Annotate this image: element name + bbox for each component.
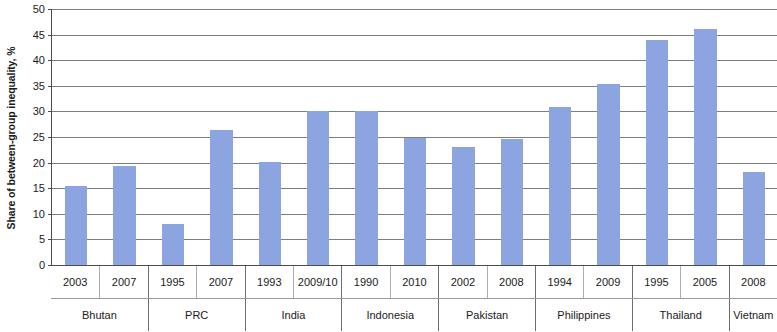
x-axis-year-cell: 2002 <box>438 266 486 298</box>
bar-chart: Share of between-group inequality, % 504… <box>0 0 777 332</box>
y-axis-tick-label: 10 <box>33 208 45 220</box>
x-axis-year-cell: 2007 <box>196 266 244 298</box>
x-axis-year-cell: 2009/10 <box>293 266 341 298</box>
x-axis-year-row: 200320071995200719932009/101990201020022… <box>51 265 777 298</box>
y-axis-tick-label: 30 <box>33 105 45 117</box>
x-axis-country-cell: PRC <box>148 299 245 331</box>
x-axis-year-cell: 1993 <box>245 266 293 298</box>
x-axis-country-cell: Pakistan <box>438 299 535 331</box>
x-axis-country-cell: India <box>245 299 342 331</box>
bar <box>743 172 765 265</box>
bar <box>452 147 474 265</box>
bars-layer <box>52 9 777 265</box>
x-axis-year-cell: 2007 <box>99 266 147 298</box>
plot-area <box>51 9 777 265</box>
bar <box>549 107 571 265</box>
x-axis-year-cell: 2003 <box>51 266 99 298</box>
y-axis-tick-label: 50 <box>33 3 45 15</box>
x-axis-year-cell: 1995 <box>148 266 196 298</box>
x-axis-year-cell: 2010 <box>390 266 438 298</box>
bar <box>597 84 619 265</box>
y-axis-tick-label: 45 <box>33 29 45 41</box>
x-axis-year-cell: 2009 <box>583 266 631 298</box>
x-axis-year-cell: 1994 <box>535 266 583 298</box>
x-axis-country-cell: Philippines <box>535 299 632 331</box>
bar <box>307 111 329 265</box>
x-axis-country-cell: Vietnam <box>729 299 777 331</box>
y-axis-tick-label: 35 <box>33 80 45 92</box>
y-axis-tick-label: 20 <box>33 157 45 169</box>
x-axis-year-cell: 2005 <box>680 266 728 298</box>
x-axis-country-row: BhutanPRCIndiaIndonesiaPakistanPhilippin… <box>51 298 777 331</box>
bar <box>646 40 668 265</box>
y-axis-tick-label: 0 <box>39 259 45 271</box>
y-axis-tick-label: 25 <box>33 131 45 143</box>
y-axis-title: Share of between-group inequality, % <box>0 0 22 276</box>
y-axis-tick-labels: 50454035302520151050 <box>20 0 48 270</box>
bar <box>355 111 377 265</box>
bar <box>113 166 135 265</box>
bar <box>501 139 523 265</box>
bar <box>259 162 281 265</box>
x-axis-country-cell: Thailand <box>632 299 729 331</box>
bar <box>404 138 426 265</box>
x-axis-year-cell: 2008 <box>487 266 535 298</box>
x-axis-country-cell: Indonesia <box>341 299 438 331</box>
x-axis-country-cell: Bhutan <box>51 299 148 331</box>
y-axis-tick-label: 15 <box>33 182 45 194</box>
x-axis-year-cell: 1990 <box>341 266 389 298</box>
bar <box>162 224 184 265</box>
y-axis-tick-label: 40 <box>33 54 45 66</box>
x-axis-year-cell: 1995 <box>632 266 680 298</box>
x-axis-label-table: 200320071995200719932009/101990201020022… <box>51 265 777 332</box>
x-axis-year-cell: 2008 <box>729 266 777 298</box>
bar <box>65 186 87 265</box>
y-axis-tick-label: 5 <box>39 233 45 245</box>
bar <box>210 130 232 265</box>
y-axis-title-label: Share of between-group inequality, % <box>5 47 17 230</box>
bar <box>694 29 716 265</box>
